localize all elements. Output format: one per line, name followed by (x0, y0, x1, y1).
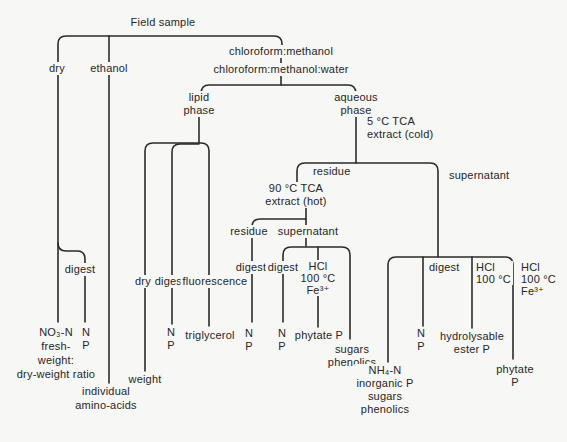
lipid-dry-result-label: weight (127, 373, 164, 386)
lipid-digest-results-label: N P (165, 326, 177, 352)
lipid-phase-label: lipid phase (182, 91, 217, 117)
cold-supernatant-digest-results-label: N P (415, 327, 427, 353)
hot-supernatant-phytate-label: phytate P (293, 329, 345, 342)
ethanol-branch-label: ethanol (88, 62, 130, 75)
lipid-dry-label: dry (133, 275, 153, 288)
hot-supernatant-hcl-label: HCl 100 °C Fe³⁺ (299, 260, 338, 296)
cold-residue-label: residue (311, 165, 352, 178)
cold-supernatant-phytate-label: phytate P (489, 363, 541, 389)
cold-supernatant-hcl-label: HCl 100 °C (474, 261, 513, 285)
hot-residue-digest-label: digest (234, 261, 269, 274)
cold-tca-treatment-label: 5 °C TCA extract (cold) (365, 115, 435, 141)
cold-supernatant-digest-label: digest (427, 261, 462, 274)
hydrolysable-ester-label: hydrolysable ester P (438, 330, 506, 356)
cold-supernatant-hcl-fe-label: HCl 100 °C Fe³⁺ (519, 261, 558, 297)
hot-supernatant-digest-results-label: N P (276, 327, 288, 353)
chloroform-methanol-label: chloroform:methanol (227, 45, 335, 58)
hot-supernatant-digest-label: digest (266, 261, 301, 274)
chloroform-methanol-water-label: chloroform:methanol:water (211, 63, 350, 76)
dry-digest-branch-line (58, 243, 85, 322)
cold-supernatant-label: supernatant (447, 169, 511, 182)
ethanol-results-label: individual amino-acids (73, 384, 139, 412)
aqueous-phase-label: aqueous phase (332, 91, 380, 117)
lipid-fluorescence-label: fluorescence (181, 275, 250, 288)
hot-supernatant-label: supernatant (276, 225, 340, 238)
hot-residue-digest-results-label: N P (243, 327, 255, 353)
fluorescence-result-label: triglycerol (183, 329, 236, 342)
dry-digest-label: digest (63, 263, 98, 276)
hot-residue-label: residue (228, 225, 269, 238)
hot-tca-treatment-label: 90 °C TCA extract (hot) (263, 182, 328, 208)
dry-branch-label: dry (47, 62, 67, 75)
dry-digest-results-label: N P (80, 326, 92, 352)
lipid-mid-drop-line (172, 144, 199, 324)
cold-supernatant-direct-results-label: NH₄-N inorganic P sugars phenolics (354, 364, 415, 416)
root-node-label: Field sample (129, 16, 198, 29)
fractionation-scheme-figure: Field sample dry ethanol chloroform:meth… (0, 0, 567, 442)
